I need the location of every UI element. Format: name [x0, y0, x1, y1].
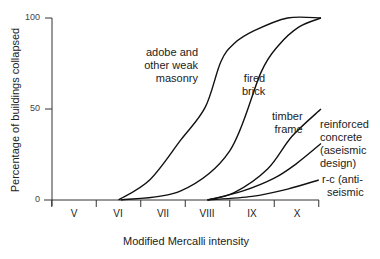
label-line: design)	[320, 157, 369, 170]
x-axis-label: Modified Mercalli intensity	[123, 235, 249, 247]
label-line: brick	[242, 85, 265, 98]
x-tick-label-v: V	[71, 208, 78, 219]
y-tick-label-100: 100	[16, 12, 40, 22]
series-label-fired-brick: fired brick	[242, 72, 265, 98]
label-line: fired	[242, 72, 265, 85]
x-tick-marks	[52, 200, 319, 207]
label-line: reinforced	[320, 118, 369, 131]
label-line: seismic	[322, 186, 364, 199]
label-line: concrete	[320, 131, 369, 144]
series-label-adobe: adobe and other weak masonry	[108, 46, 198, 85]
series-label-rc-antiseismic: r-c (anti- seismic	[322, 173, 364, 199]
series-curve-0	[119, 17, 321, 200]
label-line: adobe and	[108, 46, 198, 59]
x-tick-label-vii: VII	[157, 208, 169, 219]
label-line: timber	[272, 110, 303, 123]
y-tick-label-0: 0	[16, 194, 40, 204]
label-line: (aseismic	[320, 144, 369, 157]
series-label-rc-aseismic: reinforced concrete (aseismic design)	[320, 118, 369, 170]
series-label-timber: timber frame	[272, 110, 303, 136]
label-line: other weak	[108, 59, 198, 72]
label-line: frame	[272, 123, 303, 136]
y-tick-label-50: 50	[16, 103, 40, 113]
series-curves	[119, 17, 321, 200]
x-tick-label-x: X	[294, 208, 301, 219]
x-tick-label-vi: VI	[113, 208, 122, 219]
label-line: r-c (anti-	[322, 173, 364, 186]
label-line: masonry	[108, 72, 198, 85]
x-tick-label-ix: IX	[247, 208, 256, 219]
series-curve-2	[208, 109, 321, 200]
x-tick-label-viii: VIII	[199, 208, 214, 219]
